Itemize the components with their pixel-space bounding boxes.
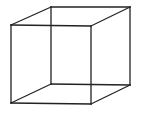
diagram-canvas xyxy=(0,0,141,114)
cube-edge-connector-bottom-right xyxy=(91,85,130,104)
cube-edge-front-bottom xyxy=(11,103,91,104)
cube-edges xyxy=(11,7,130,104)
necker-cube-diagram xyxy=(0,0,141,114)
cube-edge-connector-bottom-left xyxy=(11,84,51,103)
cube-edge-connector-top-right xyxy=(91,7,130,26)
cube-edge-back-bottom xyxy=(51,84,130,85)
cube-edge-connector-top-left xyxy=(11,7,51,25)
